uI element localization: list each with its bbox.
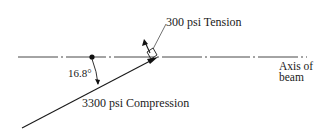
- axis-label: Axis of beam: [279, 61, 323, 83]
- angle-label: 16.8°: [68, 68, 92, 79]
- axis-label-line2: beam: [279, 71, 304, 83]
- tension-label: 300 psi Tension: [166, 16, 242, 28]
- stress-diagram: [0, 0, 324, 136]
- origin-point: [89, 54, 94, 59]
- tension-leader-line: [153, 24, 166, 49]
- tension-arrowhead-icon: [142, 39, 148, 46]
- angle-arrowhead-icon: [95, 79, 100, 85]
- compression-label: 3300 psi Compression: [82, 97, 189, 109]
